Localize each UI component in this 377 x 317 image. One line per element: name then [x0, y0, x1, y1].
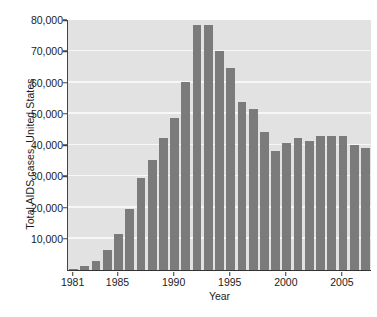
plot-area — [67, 20, 371, 271]
y-axis-tick-label: 10,000 — [3, 233, 63, 245]
bar — [148, 160, 157, 270]
aids-cases-bar-chart: Total AIDS cases, United States 10,00020… — [0, 0, 377, 317]
bar — [181, 82, 190, 270]
x-axis-tick-label: 1981 — [61, 276, 84, 288]
bar — [339, 136, 348, 270]
bar — [170, 118, 179, 270]
y-axis-tick-label: 70,000 — [3, 45, 63, 57]
bar — [193, 25, 202, 270]
bar — [260, 132, 269, 270]
bar — [204, 25, 213, 270]
bar — [215, 51, 224, 270]
x-axis-title: Year — [67, 290, 372, 302]
bar — [350, 145, 359, 270]
y-axis-tick-label: 80,000 — [3, 14, 63, 26]
y-axis-tick-label: 30,000 — [3, 170, 63, 182]
bar — [226, 68, 235, 270]
x-axis-tick-label: 2000 — [274, 276, 297, 288]
bar — [294, 138, 303, 270]
bar-series — [68, 20, 371, 270]
bar — [159, 138, 168, 270]
y-axis-tick-label: 60,000 — [3, 77, 63, 89]
bar — [80, 266, 89, 270]
x-axis-tick-group: 198119851990199520002005 — [67, 272, 370, 290]
bar — [316, 136, 325, 270]
bar — [137, 178, 146, 270]
y-axis-tick-label: 50,000 — [3, 108, 63, 120]
y-axis-tick-group: 10,00020,00030,00040,00050,00060,00070,0… — [0, 20, 63, 270]
bar — [282, 143, 291, 270]
y-axis-tick-label: 40,000 — [3, 139, 63, 151]
bar — [92, 261, 101, 270]
bar — [238, 102, 247, 270]
bar — [103, 250, 112, 270]
x-axis-tick-label: 1990 — [162, 276, 185, 288]
y-axis-tick-label: 20,000 — [3, 202, 63, 214]
x-axis-tick-label: 1985 — [106, 276, 129, 288]
bar — [69, 269, 78, 270]
bar — [327, 136, 336, 270]
bar — [361, 148, 370, 271]
x-axis-tick-label: 2005 — [330, 276, 353, 288]
bar — [305, 141, 314, 270]
bar — [271, 151, 280, 270]
x-axis-tick-label: 1995 — [218, 276, 241, 288]
bar — [114, 234, 123, 270]
bar — [249, 109, 258, 270]
bar — [125, 209, 134, 270]
